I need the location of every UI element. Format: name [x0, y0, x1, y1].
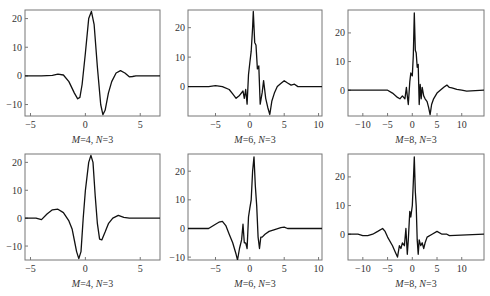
- y-tick-label: 10: [12, 42, 22, 53]
- panel-row1-col1: −505−1001020M=4, N=3: [6, 10, 160, 145]
- x-tick-label: −5: [382, 263, 393, 274]
- y-tick-label: 0: [17, 213, 22, 224]
- y-tick-label: 10: [335, 200, 345, 211]
- x-tick-label: −10: [355, 119, 371, 130]
- figure: −505−1001020M=4, N=3−5051001020M=6, N=3−…: [0, 0, 490, 296]
- x-tick-label: 5: [138, 263, 143, 274]
- x-tick-label: 5: [435, 263, 440, 274]
- y-tick-label: 10: [175, 52, 185, 63]
- y-tick-label: 0: [180, 223, 185, 234]
- y-tick-label: 10: [335, 56, 345, 67]
- x-tick-label: 0: [83, 119, 88, 130]
- panel-row2-col2: −50510−1001020M=6, N=3: [169, 154, 323, 289]
- data-line: [25, 155, 160, 258]
- x-tick-label: −5: [210, 263, 221, 274]
- y-tick-label: 0: [340, 85, 345, 96]
- x-tick-label: 5: [435, 119, 440, 130]
- axes-frame: [348, 10, 484, 116]
- panel-row2-col1: −505−1001020M=4, N=3: [6, 154, 160, 289]
- axes-frame: [25, 10, 160, 116]
- data-line: [25, 11, 160, 114]
- y-tick-label: 20: [335, 171, 345, 182]
- panel-caption: M=6, N=3: [233, 278, 275, 289]
- y-tick-label: 0: [180, 81, 185, 92]
- data-line: [188, 157, 322, 260]
- y-tick-label: −10: [6, 99, 22, 110]
- x-tick-label: −10: [355, 263, 371, 274]
- data-line: [348, 157, 484, 257]
- y-tick-label: −10: [169, 252, 185, 263]
- y-tick-label: 20: [175, 166, 185, 177]
- y-tick-label: 10: [12, 185, 22, 196]
- panel-caption: M=6, N=3: [233, 134, 275, 145]
- x-tick-label: 5: [138, 119, 143, 130]
- y-tick-label: 20: [12, 13, 22, 24]
- x-tick-label: 5: [282, 119, 287, 130]
- axes-frame: [25, 154, 160, 260]
- x-tick-label: 0: [83, 263, 88, 274]
- panel-row1-col2: −5051001020M=6, N=3: [175, 10, 324, 145]
- x-tick-label: −5: [25, 119, 36, 130]
- x-tick-label: −5: [382, 119, 393, 130]
- y-tick-label: 20: [12, 157, 22, 168]
- data-line: [348, 13, 484, 115]
- data-line: [188, 12, 322, 115]
- x-tick-label: 0: [247, 119, 252, 130]
- x-tick-label: −5: [25, 263, 36, 274]
- panel-row1-col3: −10−5051001020M=8, N=3: [335, 10, 484, 145]
- y-tick-label: 20: [175, 22, 185, 33]
- x-tick-label: 10: [314, 119, 324, 130]
- y-tick-label: 10: [175, 194, 185, 205]
- x-tick-label: 10: [457, 119, 467, 130]
- panel-row2-col3: −10−5051001020M=8, N=3: [335, 154, 484, 289]
- x-tick-label: 10: [314, 263, 324, 274]
- x-tick-label: 10: [457, 263, 467, 274]
- x-tick-label: 5: [282, 263, 287, 274]
- panel-caption: M=8, N=3: [394, 278, 436, 289]
- panel-caption: M=8, N=3: [394, 134, 436, 145]
- x-tick-label: 0: [247, 263, 252, 274]
- panel-caption: M=4, N=3: [71, 134, 113, 145]
- y-tick-label: −10: [6, 241, 22, 252]
- y-tick-label: 20: [335, 27, 345, 38]
- x-tick-label: 0: [410, 119, 415, 130]
- panel-caption: M=4, N=3: [71, 278, 113, 289]
- x-tick-label: 0: [410, 263, 415, 274]
- y-tick-label: 0: [17, 70, 22, 81]
- y-tick-label: 0: [340, 229, 345, 240]
- axes-frame: [188, 10, 322, 116]
- x-tick-label: −5: [210, 119, 221, 130]
